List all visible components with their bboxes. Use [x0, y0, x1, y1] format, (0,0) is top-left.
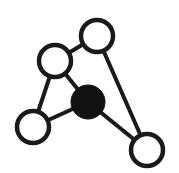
- graph-diagram-canvas: [0, 0, 179, 173]
- graph-node-bottom-left-node[interactable]: [17, 111, 49, 143]
- graph-svg: [0, 0, 179, 173]
- graph-node-bottom-right-node[interactable]: [131, 134, 163, 166]
- graph-node-top-right-node[interactable]: [81, 20, 113, 52]
- graph-node-center-filled-node[interactable]: [71, 85, 105, 119]
- graph-node-upper-left-node[interactable]: [39, 45, 71, 77]
